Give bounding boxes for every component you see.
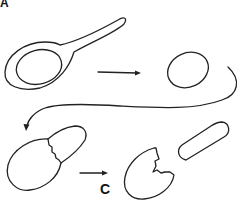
curved-return-arrow <box>27 67 237 126</box>
curved-return-arrowhead <box>24 124 30 131</box>
budding-cell-mother <box>7 139 61 190</box>
diagram-canvas <box>0 0 244 204</box>
keyhole-cell-inner <box>12 45 65 90</box>
step-label: C <box>100 182 110 196</box>
oval-cell <box>162 46 214 95</box>
arrow-right-1-shaft <box>98 72 137 73</box>
panel-label: A <box>0 0 9 9</box>
keyhole-cell-outer <box>5 18 126 89</box>
arrow-right-2-head <box>102 171 108 176</box>
budding-cell-bud <box>48 126 86 163</box>
arrow-right-1-head <box>135 71 141 76</box>
released-rod <box>179 122 229 160</box>
broken-shell <box>124 148 174 199</box>
